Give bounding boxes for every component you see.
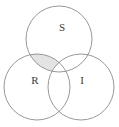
shaded-region-s-and-r-not-i: [0, 0, 119, 127]
venn-diagram-figure: S R I: [0, 0, 119, 127]
set-label-i: I: [80, 74, 84, 86]
set-label-s: S: [59, 21, 65, 33]
venn-diagram-canvas: S R I: [0, 0, 119, 127]
set-label-r: R: [31, 74, 39, 86]
